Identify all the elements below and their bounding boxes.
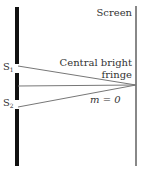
- slit2-label: S2: [3, 97, 14, 109]
- fringe-label-line1: Central bright: [60, 57, 132, 68]
- diagram-svg: Screen S1 S2 Central bright fringe m = 0: [0, 0, 157, 172]
- fringe-label-line2: fringe: [102, 69, 133, 80]
- screen-label: Screen: [96, 7, 132, 18]
- slit1-label: S1: [3, 61, 14, 73]
- ray-center: [18, 85, 136, 86]
- screen: [135, 6, 137, 166]
- barrier-bottom: [15, 109, 19, 166]
- double-slit-diagram: Screen S1 S2 Central bright fringe m = 0: [0, 0, 157, 172]
- barrier-middle: [15, 73, 19, 100]
- order-label: m = 0: [90, 94, 121, 105]
- barrier-top: [15, 7, 19, 64]
